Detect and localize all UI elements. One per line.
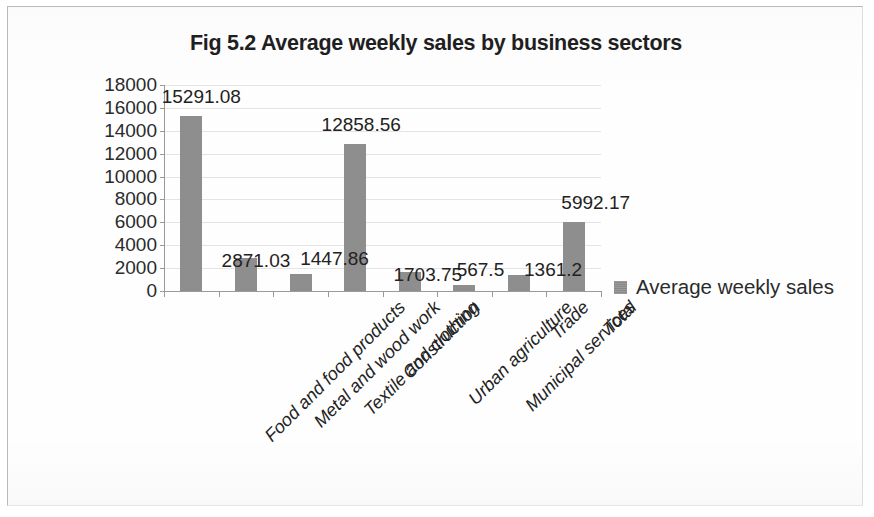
y-axis-tick (160, 131, 165, 132)
chart-frame: Fig 5.2 Average weekly sales by business… (7, 6, 863, 506)
y-axis-tick (160, 177, 165, 178)
y-axis-tick-label: 12000 (104, 143, 157, 165)
y-axis-tick-label: 0 (146, 280, 157, 302)
legend-swatch-icon (614, 281, 627, 294)
y-axis-tick (160, 154, 165, 155)
y-axis-tick (160, 199, 165, 200)
gridline (164, 199, 601, 200)
bar-value-label: 567.5 (457, 259, 505, 281)
gridline (164, 154, 601, 155)
x-axis-tick (601, 291, 602, 297)
chart-title: Fig 5.2 Average weekly sales by business… (8, 31, 864, 56)
y-axis-tick-label: 10000 (104, 166, 157, 188)
bar-value-label: 2871.03 (222, 250, 291, 272)
y-axis-tick (160, 245, 165, 246)
y-axis-tick-label: 6000 (115, 211, 157, 233)
y-axis-tick (160, 268, 165, 269)
y-axis-tick-label: 4000 (115, 234, 157, 256)
bar-value-label: 1361.2 (524, 259, 582, 281)
y-axis-tick (160, 108, 165, 109)
bar-value-label: 1703.75 (393, 264, 462, 286)
chart-legend: Average weekly sales (614, 275, 834, 299)
gridline (164, 245, 601, 246)
x-axis-category-labels: Food and food productsMetal and wood wor… (164, 293, 601, 503)
bar-value-label: 15291.08 (162, 86, 241, 108)
bar (180, 116, 202, 291)
y-axis-tick-label: 8000 (115, 188, 157, 210)
legend-entry-label: Average weekly sales (636, 275, 834, 299)
y-axis-tick-label: 16000 (104, 97, 157, 119)
plot-area: 0200040006000800010000120001400016000180… (164, 85, 601, 291)
gridline (164, 222, 601, 223)
y-axis-tick-label: 2000 (115, 257, 157, 279)
gridline (164, 177, 601, 178)
bar-value-label: 5992.17 (561, 192, 630, 214)
bar (290, 274, 312, 291)
y-axis-line (164, 85, 165, 291)
gridline (164, 108, 601, 109)
y-axis-tick (160, 222, 165, 223)
x-axis-category-label: Food and food products (261, 297, 410, 446)
y-axis-tick-label: 14000 (104, 120, 157, 142)
bar-value-label: 12858.56 (322, 114, 401, 136)
bar-value-label: 1447.86 (300, 248, 369, 270)
y-axis-tick-label: 18000 (104, 74, 157, 96)
